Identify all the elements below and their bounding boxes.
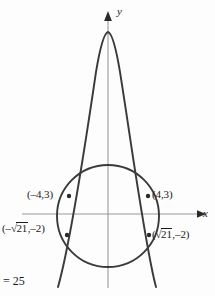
x-axis (22, 210, 206, 218)
point-label-lower-left: (–√21,–2) (2, 222, 45, 234)
point-label-lower-right: (√21,–2) (152, 228, 189, 240)
radicand: 21 (16, 222, 28, 234)
radical-group: √21 (11, 222, 28, 234)
label-suffix: ,–2) (28, 222, 45, 234)
y-axis-label: y (117, 6, 122, 17)
point-label-upper-right: (4,3) (152, 189, 173, 200)
point-marker-lower-left (65, 233, 69, 237)
math-figure: y x (–4,3) (4,3) (–√21,–2) (√21,–2) = 25 (0, 0, 215, 296)
point-marker-lower-right (147, 233, 151, 237)
label-prefix: (– (2, 222, 11, 234)
point-label-upper-left: (–4,3) (27, 189, 53, 200)
x-axis-label: x (203, 208, 208, 219)
radicand: 21 (161, 228, 173, 240)
y-axis-arrowhead (104, 11, 112, 21)
radical-group: √21 (156, 228, 173, 240)
point-marker-upper-left (67, 194, 71, 198)
y-axis (104, 11, 112, 288)
parabola-curve (58, 32, 156, 287)
graph-canvas (0, 0, 215, 296)
equation-fragment: = 25 (3, 275, 25, 287)
label-suffix: ,–2) (172, 228, 189, 240)
point-marker-upper-right (146, 194, 150, 198)
